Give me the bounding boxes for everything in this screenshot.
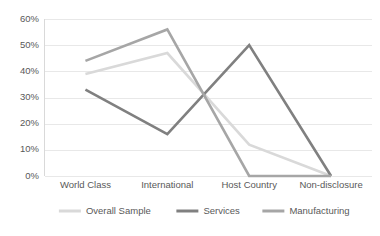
y-axis-tick-label: 0% [25,170,39,181]
x-axis-category-label: World Class [60,179,111,190]
x-axis-category-labels: World ClassInternationalHost CountryNon-… [60,179,363,190]
legend-label-overall-sample: Overall Sample [86,205,151,216]
plot-series [85,29,331,176]
y-axis-tick-label: 10% [20,143,40,154]
legend-label-manufacturing: Manufacturing [289,205,349,216]
x-axis-category-label: International [141,179,193,190]
legend-label-services: Services [203,205,240,216]
y-axis-tick-label: 40% [20,65,40,76]
y-axis-tick-label: 20% [20,117,40,128]
y-axis-tick-label: 30% [20,91,40,102]
y-axis-tick-labels: 60%50%40%30%20%10%0% [20,13,40,181]
series-line-manufacturing [85,29,331,176]
x-axis-category-label: Non-disclosure [299,179,362,190]
chart-legend: Overall SampleServicesManufacturing [59,205,350,216]
chart-canvas: 60%50%40%30%20%10%0% World ClassInternat… [0,0,380,236]
line-chart: 60%50%40%30%20%10%0% World ClassInternat… [0,0,380,236]
y-axis-tick-label: 60% [20,13,40,24]
x-axis-category-label: Host Country [221,179,277,190]
y-axis-tick-label: 50% [20,39,40,50]
